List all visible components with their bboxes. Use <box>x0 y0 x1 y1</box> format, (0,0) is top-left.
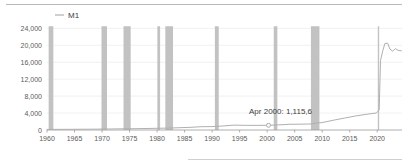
y-tick-label: 8,000 <box>24 93 42 100</box>
y-tick-label: 20,000 <box>21 42 43 49</box>
y-tick-label: 4,000 <box>24 110 42 117</box>
x-tick-label: 2005 <box>287 135 303 142</box>
top-divider <box>6 4 402 5</box>
y-tick-label: 12,000 <box>21 76 43 83</box>
y-tick-label: 0 <box>38 127 42 134</box>
x-tick-label: 2010 <box>314 135 330 142</box>
annotation-marker[interactable] <box>267 123 271 127</box>
recession-band <box>101 26 107 130</box>
gridlines <box>47 28 402 113</box>
x-tick-label: 1965 <box>67 135 83 142</box>
recession-bands <box>49 26 380 130</box>
x-tick-label: 1995 <box>232 135 248 142</box>
chart-legend: M1 <box>55 11 80 20</box>
legend-label-m1: M1 <box>68 11 80 20</box>
recession-band <box>157 26 160 130</box>
series-line-m1[interactable] <box>47 43 401 129</box>
x-tick-label: 1990 <box>204 135 220 142</box>
y-tick-label: 16,000 <box>21 59 43 66</box>
bottom-divider <box>188 159 402 160</box>
recession-band <box>311 26 320 130</box>
x-tick-label: 1975 <box>122 135 138 142</box>
m1-money-supply-chart: 04,0008,00012,00016,00020,00024,000 1960… <box>0 8 407 158</box>
x-tick-label: 1985 <box>177 135 193 142</box>
x-tick-label: 2000 <box>259 135 275 142</box>
recession-band <box>165 26 173 130</box>
recession-band <box>215 26 219 130</box>
x-tick-label: 2015 <box>342 135 358 142</box>
x-axis-ticks: 1960196519701975198019851990199520002005… <box>39 130 385 142</box>
x-tick-label: 1960 <box>39 135 55 142</box>
recession-band <box>49 26 54 130</box>
recession-band <box>378 26 379 130</box>
x-tick-label: 1970 <box>94 135 110 142</box>
y-axis-ticks: 04,0008,00012,00016,00020,00024,000 <box>21 25 43 134</box>
annotation-label: Apr 2000: 1,115,6 <box>249 107 313 116</box>
x-tick-label: 1980 <box>149 135 165 142</box>
chart-svg: 04,0008,00012,00016,00020,00024,000 1960… <box>0 8 407 158</box>
x-tick-label: 2020 <box>369 135 385 142</box>
y-tick-label: 24,000 <box>21 25 43 32</box>
series-lines[interactable] <box>47 43 401 129</box>
recession-band <box>124 26 131 130</box>
